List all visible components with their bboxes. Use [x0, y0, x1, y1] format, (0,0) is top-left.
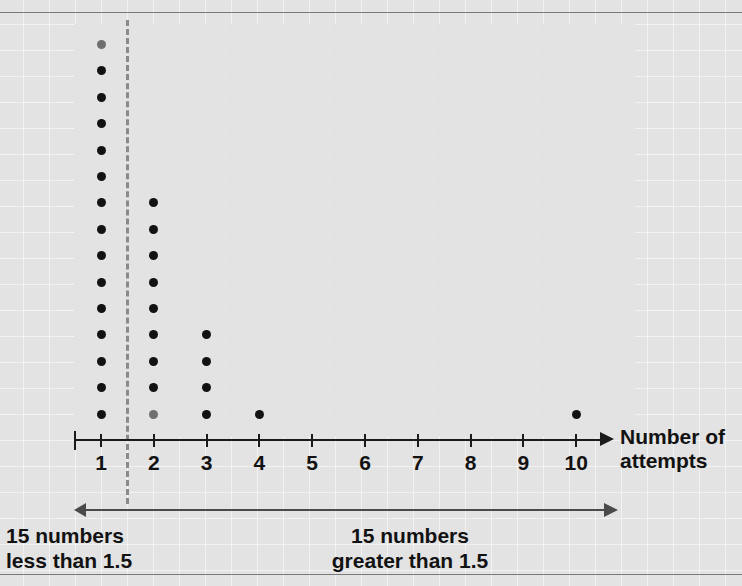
data-point-dot [97, 93, 106, 102]
x-axis-tick-label: 4 [239, 452, 279, 473]
left-annotation-text: 15 numbers less than 1.5 [6, 524, 134, 574]
x-axis-tick-label: 5 [292, 452, 332, 473]
x-axis-tick-label: 3 [187, 452, 227, 473]
data-point-dot [149, 410, 158, 419]
x-axis-tick [100, 434, 102, 447]
data-point-dot [97, 304, 106, 313]
data-point-dot [149, 330, 158, 339]
data-point-dot [202, 410, 211, 419]
data-point-dot [97, 251, 106, 260]
data-point-dot [97, 146, 106, 155]
x-axis-tick [470, 434, 472, 447]
left-annotation-arrow-line [82, 509, 128, 511]
left-annotation-line-2: less than 1.5 [6, 549, 134, 574]
x-axis-tick-label: 7 [398, 452, 438, 473]
right-annotation-text: 15 numbers greater than 1.5 [260, 524, 560, 574]
x-axis-tick-label: 10 [556, 452, 596, 473]
data-point-dot [97, 40, 106, 49]
data-point-dot [572, 410, 581, 419]
x-axis-tick [206, 434, 208, 447]
data-point-dot [97, 119, 106, 128]
data-point-dot [202, 383, 211, 392]
x-axis-title-line-1: Number of [620, 425, 740, 449]
right-annotation-arrowhead [604, 503, 618, 517]
threshold-dashed-line [126, 20, 129, 504]
data-point-dot [97, 278, 106, 287]
data-point-dot [149, 304, 158, 313]
data-point-dot [149, 225, 158, 234]
right-annotation-line-1: 15 numbers [260, 524, 560, 549]
x-axis-tick-label: 9 [503, 452, 543, 473]
x-axis-tick [364, 434, 366, 447]
left-annotation-line-1: 15 numbers [6, 524, 134, 549]
x-axis-tick-label: 2 [134, 452, 174, 473]
data-point-dot [149, 383, 158, 392]
dot-plot-figure: 12345678910 Number of attempts 15 number… [0, 0, 742, 586]
x-axis-tick [258, 434, 260, 447]
data-point-dot [202, 357, 211, 366]
data-point-dot [97, 383, 106, 392]
data-point-dot [255, 410, 264, 419]
x-axis-tick [311, 434, 313, 447]
data-point-dot [97, 410, 106, 419]
x-axis-tick-label: 8 [451, 452, 491, 473]
data-point-dot [149, 357, 158, 366]
data-point-dot [97, 330, 106, 339]
x-axis-tick-label: 1 [81, 452, 121, 473]
data-point-dot [149, 278, 158, 287]
x-axis-title: Number of attempts [620, 425, 740, 472]
right-annotation-line-2: greater than 1.5 [260, 549, 560, 574]
data-point-dot [149, 198, 158, 207]
data-point-dot [97, 357, 106, 366]
x-axis-arrowhead [600, 432, 614, 446]
data-point-dot [97, 225, 106, 234]
data-point-dot [97, 198, 106, 207]
x-axis-tick [575, 434, 577, 447]
x-axis-tick [153, 434, 155, 447]
x-axis-tick [417, 434, 419, 447]
x-axis-tick-label: 6 [345, 452, 385, 473]
data-point-dot [97, 172, 106, 181]
right-annotation-arrow-line [127, 509, 615, 511]
x-axis-tick [522, 434, 524, 447]
data-point-dot [202, 330, 211, 339]
x-axis-title-line-2: attempts [620, 449, 740, 473]
data-point-dot [149, 251, 158, 260]
data-point-dot [97, 66, 106, 75]
